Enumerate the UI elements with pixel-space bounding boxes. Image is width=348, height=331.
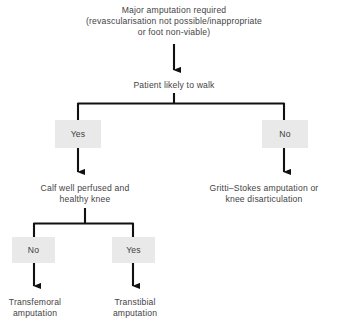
box-no-calf-healthy[interactable]: No <box>12 237 55 263</box>
box-no-patient-walk[interactable]: No <box>262 120 308 148</box>
node-transtibial-amputation: Transtibial amputation <box>100 297 170 319</box>
box-yes-patient-walk[interactable]: Yes <box>55 120 101 148</box>
node-transfemoral-amputation: Transfemoral amputation <box>0 297 70 319</box>
box-yes-calf-healthy[interactable]: Yes <box>112 237 155 263</box>
flowchart-connectors <box>0 0 348 331</box>
node-calf-well-perfused: Calf well perfused and healthy knee <box>20 183 150 205</box>
node-root-condition: Major amputation required (revascularisa… <box>58 5 290 39</box>
node-patient-likely-to-walk: Patient likely to walk <box>96 80 252 91</box>
node-gritti-stokes-outcome: Gritti–Stokes amputation or knee disarti… <box>186 183 342 205</box>
